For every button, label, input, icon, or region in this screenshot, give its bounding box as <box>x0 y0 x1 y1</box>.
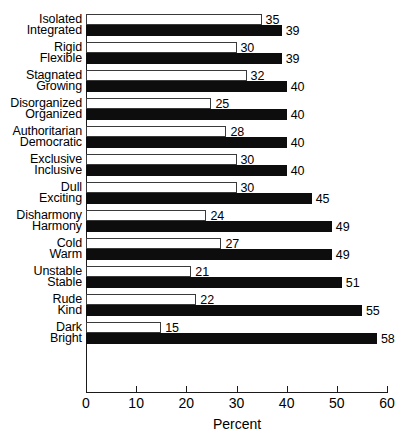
bar-pair: 2840 <box>86 126 387 148</box>
x-tick <box>186 386 187 393</box>
bar-row: 40 <box>86 137 387 148</box>
bar-pair: 3045 <box>86 182 387 204</box>
x-tick <box>337 386 338 393</box>
bar-row: 32 <box>86 70 387 81</box>
bar-value-label: 25 <box>215 97 229 110</box>
category-label-stable: Stable <box>0 277 82 288</box>
category-pair: DullExciting <box>0 182 82 204</box>
bar-value-label: 22 <box>200 293 214 306</box>
bar-democratic[interactable] <box>86 137 287 148</box>
category-pair: RudeKind <box>0 294 82 316</box>
bar-row: 40 <box>86 109 387 120</box>
category-label-integrated: Integrated <box>0 25 82 36</box>
bar-value-label: 49 <box>336 220 350 233</box>
category-label-exciting: Exciting <box>0 193 82 204</box>
x-tick <box>86 386 87 393</box>
bar-exciting[interactable] <box>86 193 312 204</box>
bar-value-label: 28 <box>230 125 244 138</box>
bar-unstable[interactable] <box>86 266 191 277</box>
category-pair: DarkBright <box>0 322 82 344</box>
bar-value-label: 32 <box>251 69 265 82</box>
bar-stable[interactable] <box>86 277 342 288</box>
category-label-warm: Warm <box>0 249 82 260</box>
x-tick-label: 30 <box>229 394 245 412</box>
bar-kind[interactable] <box>86 305 362 316</box>
bar-value-label: 30 <box>241 41 255 54</box>
bar-value-label: 39 <box>286 24 300 37</box>
category-label-democratic: Democratic <box>0 137 82 148</box>
category-pair: StagnatedGrowing <box>0 70 82 92</box>
bar-growing[interactable] <box>86 81 287 92</box>
bar-rows: 3539303932402540284030403045244927492151… <box>86 14 387 344</box>
bar-inclusive[interactable] <box>86 165 287 176</box>
x-axis-title: Percent <box>86 415 388 433</box>
bar-pair: 1558 <box>86 322 387 344</box>
x-tick <box>287 386 288 393</box>
bar-isolated[interactable] <box>86 14 262 25</box>
bar-row: 30 <box>86 154 387 165</box>
category-pair: ExclusiveInclusive <box>0 154 82 176</box>
category-pair: ColdWarm <box>0 238 82 260</box>
bar-value-label: 58 <box>381 332 395 345</box>
category-label-harmony: Harmony <box>0 221 82 232</box>
category-axis-labels: IsolatedIntegratedRigidFlexibleStagnated… <box>0 14 82 392</box>
bar-value-label: 55 <box>366 304 380 317</box>
bar-dark[interactable] <box>86 322 161 333</box>
bar-row: 15 <box>86 322 387 333</box>
bar-value-label: 35 <box>266 13 280 26</box>
bar-rigid[interactable] <box>86 42 237 53</box>
bar-row: 40 <box>86 165 387 176</box>
x-tick-label: 50 <box>329 394 345 412</box>
category-pair: UnstableStable <box>0 266 82 288</box>
category-pair: DisorganizedOrganized <box>0 98 82 120</box>
bar-value-label: 49 <box>336 248 350 261</box>
bar-flexible[interactable] <box>86 53 282 64</box>
bar-value-label: 30 <box>241 181 255 194</box>
bar-pair: 2151 <box>86 266 387 288</box>
bar-row: 30 <box>86 42 387 53</box>
bar-organized[interactable] <box>86 109 287 120</box>
category-pair: RigidFlexible <box>0 42 82 64</box>
bar-row: 39 <box>86 53 387 64</box>
bar-value-label: 24 <box>210 209 224 222</box>
bar-dull[interactable] <box>86 182 237 193</box>
category-label-kind: Kind <box>0 305 82 316</box>
bar-row: 25 <box>86 98 387 109</box>
bar-harmony[interactable] <box>86 221 332 232</box>
bar-value-label: 40 <box>291 108 305 121</box>
bar-value-label: 51 <box>346 276 360 289</box>
bar-row: 22 <box>86 294 387 305</box>
bar-cold[interactable] <box>86 238 221 249</box>
bar-pair: 2749 <box>86 238 387 260</box>
bar-pair: 3240 <box>86 70 387 92</box>
bar-row: 55 <box>86 305 387 316</box>
x-tick <box>136 386 137 393</box>
x-tick-label: 20 <box>179 394 195 412</box>
bar-bright[interactable] <box>86 333 377 344</box>
x-tick <box>387 386 388 393</box>
bar-exclusive[interactable] <box>86 154 237 165</box>
bar-row: 39 <box>86 25 387 36</box>
bar-chart: IsolatedIntegratedRigidFlexibleStagnated… <box>0 0 408 442</box>
bar-stagnated[interactable] <box>86 70 247 81</box>
x-tick-label: 60 <box>379 394 395 412</box>
bar-pair: 3040 <box>86 154 387 176</box>
bar-row: 58 <box>86 333 387 344</box>
bar-disharmony[interactable] <box>86 210 206 221</box>
bar-row: 28 <box>86 126 387 137</box>
category-label-flexible: Flexible <box>0 53 82 64</box>
bar-integrated[interactable] <box>86 25 282 36</box>
category-label-bright: Bright <box>0 333 82 344</box>
bar-rude[interactable] <box>86 294 196 305</box>
category-label-growing: Growing <box>0 81 82 92</box>
bar-warm[interactable] <box>86 249 332 260</box>
bar-value-label: 40 <box>291 136 305 149</box>
bar-row: 40 <box>86 81 387 92</box>
bar-pair: 2449 <box>86 210 387 232</box>
bar-row: 49 <box>86 249 387 260</box>
bar-row: 49 <box>86 221 387 232</box>
bar-authoritarian[interactable] <box>86 126 226 137</box>
category-pair: IsolatedIntegrated <box>0 14 82 36</box>
bar-disorganized[interactable] <box>86 98 211 109</box>
category-label-organized: Organized <box>0 109 82 120</box>
